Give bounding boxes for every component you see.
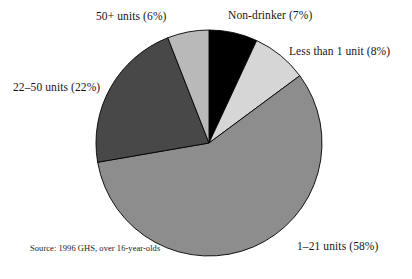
slice-label-50-plus-units: 50+ units (6%) xyxy=(96,10,167,23)
source-note: Source: 1996 GHS, over 16-year-olds xyxy=(30,243,160,253)
slice-label-1-21-units: 1–21 units (58%) xyxy=(297,240,378,253)
slice-label-less-than-1-unit: Less than 1 unit (8%) xyxy=(289,45,390,58)
pie-chart-graphic xyxy=(0,0,412,279)
pie-chart-figure: 50+ units (6%) Non-drinker (7%) Less tha… xyxy=(0,0,412,279)
pie-slice-group xyxy=(96,30,322,256)
slice-label-22-50-units: 22–50 units (22%) xyxy=(13,81,100,94)
slice-label-non-drinker: Non-drinker (7%) xyxy=(228,9,312,22)
